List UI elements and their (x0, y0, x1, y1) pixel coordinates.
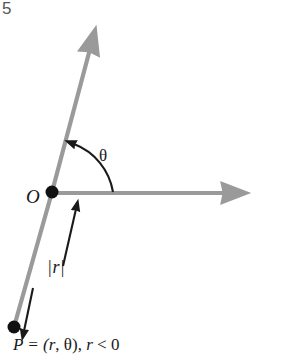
condition-inequality: < 0 (93, 335, 120, 354)
point-p-label: P = (r, θ), r < 0 (13, 336, 119, 353)
angle-theta-label: θ (99, 147, 107, 164)
point-separator: , (55, 335, 64, 354)
diagram-canvas (0, 0, 288, 363)
abs-bar-right: | (60, 257, 66, 277)
point-p-dot (8, 321, 21, 334)
origin-dot (46, 186, 59, 199)
point-theta-var: θ (64, 335, 72, 354)
point-suffix: ), (72, 335, 86, 354)
terminal-side-ray (52, 49, 90, 192)
figure-number: 5 (2, 0, 12, 17)
point-prefix: P = ( (13, 335, 49, 354)
radius-magnitude-label: |r| (47, 258, 65, 276)
origin-label: O (26, 187, 40, 206)
polar-coordinate-figure: 5 O θ |r| P = (r, θ), r < 0 (0, 0, 288, 363)
radius-arrow-to-point (24, 288, 33, 331)
condition-radius-var: r (86, 335, 93, 354)
radius-variable: r (53, 257, 60, 277)
